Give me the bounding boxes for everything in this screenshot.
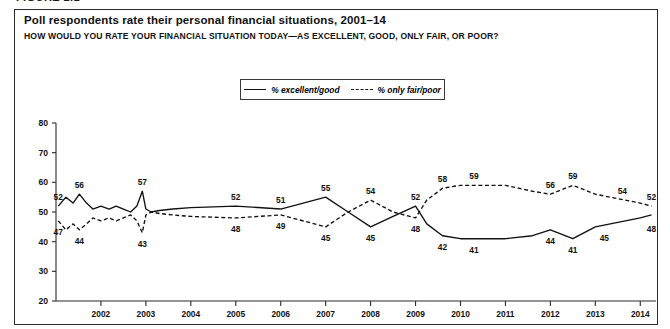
data-label: 47 [54,227,64,237]
data-label: 41 [469,245,479,255]
data-label: 45 [600,233,610,243]
data-label: 45 [321,233,331,243]
data-label: 56 [546,180,556,190]
x-tick-label: 2004 [182,309,201,319]
data-label: 55 [321,183,331,193]
x-tick-label: 2008 [361,309,380,319]
data-label: 51 [276,195,286,205]
data-label: 44 [75,236,85,246]
y-tick-label: 80 [38,118,48,128]
data-label: 42 [438,242,448,252]
chart-plot-area: 2030405060708020022003200420052006200720… [0,0,670,329]
data-label: 45 [366,233,376,243]
y-tick-label: 60 [38,177,48,187]
data-label: 54 [618,186,628,196]
data-label: 52 [647,192,657,202]
data-label: 48 [647,224,657,234]
x-tick-label: 2002 [92,309,111,319]
data-label: 52 [54,192,64,202]
data-label: 56 [75,180,85,190]
y-tick-label: 20 [38,296,48,306]
y-tick-label: 50 [38,207,48,217]
data-label: 52 [411,192,421,202]
y-tick-label: 70 [38,148,48,158]
x-tick-label: 2009 [406,309,425,319]
data-label: 49 [276,221,286,231]
data-label: 48 [231,224,241,234]
x-tick-label: 2011 [496,309,515,319]
y-tick-label: 40 [38,237,48,247]
x-tick-label: 2006 [271,309,290,319]
data-label: 44 [546,236,556,246]
data-label: 48 [411,224,421,234]
data-label: 54 [366,186,376,196]
x-tick-label: 2014 [631,309,650,319]
x-tick-label: 2013 [586,309,605,319]
x-tick-label: 2003 [137,309,156,319]
chart-svg: 2030405060708020022003200420052006200720… [0,0,670,329]
x-tick-label: 2010 [451,309,470,319]
data-label: 43 [138,239,148,249]
data-label: 41 [568,245,578,255]
data-label: 59 [568,171,578,181]
data-label: 52 [231,192,241,202]
figure-root: FIGURE 2.1 Poll respondents rate their p… [0,0,670,329]
x-tick-label: 2012 [541,309,560,319]
data-label: 57 [138,177,148,187]
data-label: 59 [469,171,479,181]
x-tick-label: 2005 [226,309,245,319]
x-tick-label: 2007 [316,309,335,319]
data-label: 58 [438,174,448,184]
y-tick-label: 30 [38,266,48,276]
